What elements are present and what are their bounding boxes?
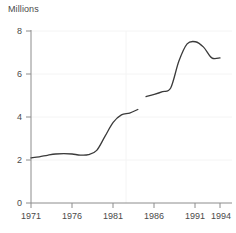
x-tick-label-1971: 1971 bbox=[21, 211, 41, 221]
x-tick-label-1994: 1994 bbox=[211, 211, 231, 221]
data-line-segment-2 bbox=[146, 41, 220, 96]
line-chart-plot: 8 6 4 2 0 1971 1976 1981 1986 1991 1994 bbox=[0, 0, 236, 233]
x-tick-label-1976: 1976 bbox=[62, 211, 82, 221]
x-tick-label-1981: 1981 bbox=[103, 211, 123, 221]
gridlines bbox=[31, 31, 232, 203]
y-tick-label-4: 4 bbox=[17, 112, 22, 122]
y-tick-label-0: 0 bbox=[17, 198, 22, 208]
y-tick-label-2: 2 bbox=[17, 155, 22, 165]
y-tick-label-8: 8 bbox=[17, 26, 22, 36]
chart-container: Millions 8 6 4 2 0 bbox=[0, 0, 236, 233]
x-axis-ticks: 1971 1976 1981 1986 1991 1994 bbox=[21, 203, 231, 221]
y-axis-ticks: 8 6 4 2 0 bbox=[17, 26, 31, 208]
x-tick-label-1991: 1991 bbox=[185, 211, 205, 221]
y-tick-label-6: 6 bbox=[17, 69, 22, 79]
x-tick-label-1986: 1986 bbox=[144, 211, 164, 221]
